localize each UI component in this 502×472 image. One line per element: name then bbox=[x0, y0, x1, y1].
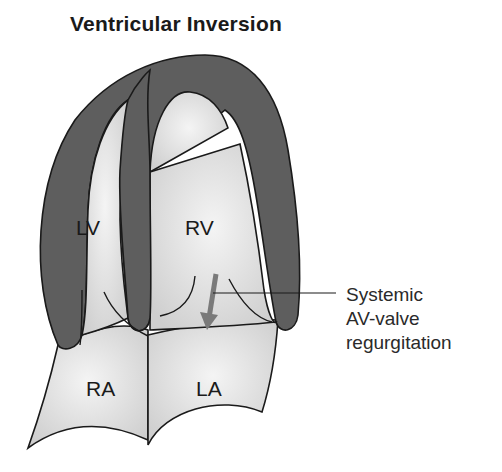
annotation-line-1: Systemic bbox=[346, 283, 452, 307]
label-lv: LV bbox=[76, 216, 100, 240]
annotation-text: Systemic AV-valve regurgitation bbox=[346, 283, 452, 355]
annotation-line-3: regurgitation bbox=[346, 331, 452, 355]
label-rv: RV bbox=[185, 216, 214, 240]
label-la: LA bbox=[196, 377, 222, 401]
label-ra: RA bbox=[86, 377, 115, 401]
annotation-line-2: AV-valve bbox=[346, 307, 452, 331]
